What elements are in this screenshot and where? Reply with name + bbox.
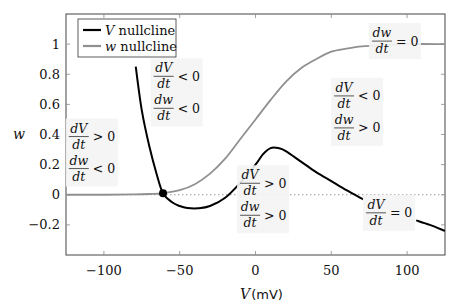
x-tick-label: 100: [395, 263, 420, 278]
svg-text:dw: dw: [373, 25, 392, 40]
y-tick-label: 0.4: [39, 127, 60, 142]
v-nullcline-curve: [416, 220, 445, 231]
svg-text:dt: dt: [157, 108, 171, 123]
svg-text:> 0: > 0: [358, 120, 380, 135]
phase-plane-chart: −100−50050100−0.200.20.40.60.81 dVdt> 0d…: [0, 0, 458, 307]
svg-text:= 0: = 0: [390, 205, 412, 220]
svg-text:dt: dt: [72, 137, 86, 152]
annotation-label-w-nullcline: dwdt= 0: [369, 23, 421, 59]
legend-label: V nullcline: [105, 23, 176, 38]
x-tick-label: 0: [251, 263, 259, 278]
svg-text:dV: dV: [70, 121, 89, 136]
svg-text:dV: dV: [367, 197, 386, 212]
svg-text:dV: dV: [155, 60, 174, 75]
svg-text:dw: dw: [69, 153, 88, 168]
svg-text:< 0: < 0: [178, 69, 200, 84]
svg-text:dt: dt: [72, 169, 86, 184]
y-tick-label: 0: [52, 187, 60, 202]
x-tick-label: 50: [323, 263, 340, 278]
y-tick-label: 1: [52, 37, 60, 52]
svg-text:< 0: < 0: [358, 88, 380, 103]
y-tick-label: 0.6: [39, 97, 60, 112]
svg-text:dt: dt: [369, 213, 383, 228]
svg-text:dt: dt: [157, 76, 171, 91]
y-axis-label: w: [13, 126, 25, 142]
svg-text:dt: dt: [244, 215, 258, 230]
svg-text:dw: dw: [241, 199, 260, 214]
svg-text:> 0: > 0: [93, 129, 115, 144]
svg-text:< 0: < 0: [93, 161, 115, 176]
svg-text:dV: dV: [336, 80, 355, 95]
x-tick-label: −50: [166, 263, 193, 278]
annotation-region-right: dVdt< 0dwdt> 0: [331, 78, 383, 146]
fixed-point-marker: [159, 189, 167, 197]
x-tick-label: −100: [86, 263, 122, 278]
svg-text:> 0: > 0: [264, 176, 286, 191]
svg-text:dt: dt: [338, 96, 352, 111]
annotation-region-left: dVdt> 0dwdt< 0: [66, 119, 118, 187]
fixed-point-dot: [159, 189, 167, 197]
legend-label: w nullcline: [105, 39, 177, 54]
y-tick-label: −0.2: [28, 217, 60, 232]
svg-text:dw: dw: [335, 112, 354, 127]
x-axis-label: V(mV): [240, 286, 283, 302]
y-tick-label: 0.2: [39, 157, 60, 172]
svg-text:dV: dV: [242, 167, 261, 182]
svg-text:dt: dt: [244, 183, 258, 198]
annotation-label-v-nullcline: dVdt= 0: [363, 195, 415, 231]
legend: V nullclinew nullcline: [78, 19, 177, 57]
svg-text:> 0: > 0: [264, 208, 286, 223]
svg-text:dt: dt: [375, 41, 389, 56]
svg-text:dt: dt: [338, 128, 352, 143]
annotation-region-top-middle: dVdt< 0dwdt< 0: [151, 58, 203, 126]
svg-text:dw: dw: [154, 92, 173, 107]
y-tick-label: 0.8: [39, 67, 60, 82]
svg-text:< 0: < 0: [178, 101, 200, 116]
annotation-region-bottom-middle: dVdt> 0dwdt> 0: [237, 165, 289, 233]
svg-text:= 0: = 0: [396, 34, 418, 49]
